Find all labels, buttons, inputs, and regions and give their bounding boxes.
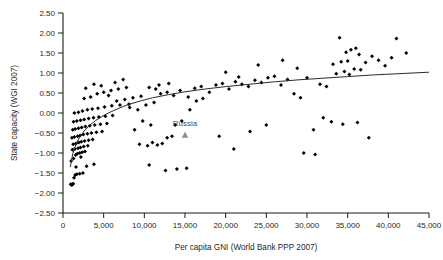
data-point [199, 85, 203, 89]
data-point [92, 116, 96, 120]
data-point [86, 144, 90, 148]
data-point [150, 141, 154, 145]
data-point [124, 85, 128, 89]
data-point [128, 105, 132, 109]
data-point [83, 149, 87, 153]
data-point [298, 96, 302, 100]
data-point [76, 110, 80, 114]
data-point [133, 128, 137, 132]
y-axis-tick-group: −2.50−2.00−1.50−1.00−0.500.000.501.001.5… [35, 9, 63, 218]
data-point [224, 70, 228, 74]
data-point [87, 117, 91, 121]
data-point [167, 81, 171, 85]
data-point [96, 106, 100, 110]
data-point [217, 134, 221, 138]
annotation-label-russia: Russia [173, 119, 198, 128]
data-point [139, 94, 143, 98]
data-point [193, 86, 197, 90]
data-point [81, 171, 85, 175]
data-point [154, 87, 158, 91]
data-point [186, 95, 190, 99]
data-point [253, 78, 257, 82]
x-axis-tick-label: 25,000 [254, 221, 279, 230]
data-point [364, 61, 368, 65]
x-axis-tick-label: 35,000 [335, 221, 360, 230]
data-point [152, 101, 156, 105]
data-point [232, 147, 236, 151]
data-point [155, 143, 159, 147]
data-point [272, 74, 276, 78]
data-point [390, 56, 394, 60]
y-axis-tick-label: −2.00 [35, 189, 56, 198]
y-axis-tick-label: 1.00 [39, 69, 55, 78]
data-point [92, 162, 96, 166]
data-point [256, 63, 260, 67]
data-point [157, 83, 161, 87]
data-point [85, 132, 89, 136]
data-point [160, 141, 164, 145]
data-point [123, 97, 127, 101]
scatter-chart-figure: −2.50−2.00−1.50−1.00−0.500.000.501.001.5… [0, 0, 443, 260]
data-point [266, 76, 270, 80]
data-point [207, 90, 211, 94]
data-point [83, 139, 87, 143]
data-point [248, 129, 252, 133]
data-point [338, 36, 342, 40]
data-point [74, 165, 78, 169]
data-point [201, 97, 205, 101]
data-point [325, 85, 329, 89]
data-point [99, 84, 103, 88]
data-point [84, 86, 88, 90]
data-point [144, 103, 148, 107]
y-axis-tick-label: 1.50 [39, 49, 55, 58]
data-point [334, 72, 338, 76]
data-point [359, 68, 363, 72]
data-point [147, 163, 151, 167]
data-point [313, 153, 317, 157]
data-point [87, 138, 91, 142]
data-point [355, 121, 359, 125]
data-point [141, 119, 145, 123]
data-point [194, 99, 198, 103]
data-point [80, 125, 84, 129]
y-axis-tick-label: 2.00 [39, 29, 55, 38]
data-point [98, 122, 102, 126]
data-point [394, 37, 398, 41]
data-point [346, 59, 350, 63]
data-point [92, 82, 96, 86]
data-point [94, 130, 98, 134]
data-point [383, 64, 387, 68]
data-point [102, 105, 106, 109]
data-point [318, 82, 322, 86]
x-axis-tick-group: 05,00010,00015,00020,00025,00030,00035,0… [61, 213, 442, 230]
data-point [78, 172, 82, 176]
data-point [339, 60, 343, 64]
data-point [264, 123, 268, 127]
annotation-marker-triangle [182, 132, 188, 138]
data-point [89, 95, 93, 99]
x-axis-tick-label: 45,000 [417, 221, 442, 230]
data-point [279, 83, 283, 87]
data-point [349, 48, 353, 52]
data-point [329, 120, 333, 124]
data-point [72, 111, 76, 115]
data-point [188, 108, 192, 112]
data-point [295, 66, 299, 70]
data-point [341, 122, 345, 126]
data-point [93, 123, 97, 127]
data-point [185, 166, 189, 170]
data-point [72, 120, 76, 124]
data-point [220, 81, 224, 85]
x-axis-tick-label: 15,000 [173, 221, 198, 230]
data-point [233, 80, 237, 84]
data-point [78, 118, 82, 122]
data-point [165, 90, 169, 94]
data-point [82, 117, 86, 121]
data-point [170, 134, 174, 138]
data-point [165, 136, 169, 140]
data-point [85, 108, 89, 112]
data-point [107, 93, 111, 97]
data-point [75, 119, 79, 123]
annotation-group: Russia [173, 119, 198, 138]
plot-svg: −2.50−2.00−1.50−1.00−0.500.000.501.001.5… [0, 0, 443, 260]
